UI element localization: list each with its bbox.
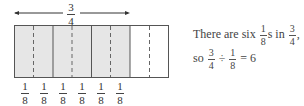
eighth-label: 18: [21, 81, 29, 106]
inline-fraction: 18: [260, 24, 267, 47]
inline-fraction: 34: [289, 24, 296, 47]
eighth-label: 18: [116, 81, 124, 106]
inline-fraction: 34: [208, 48, 215, 71]
eighth-label: 18: [40, 81, 48, 106]
eighth-label: 18: [59, 81, 67, 106]
explanation-line-1: There are six 18s in 34,: [193, 24, 300, 47]
fraction-bar-model: [0, 0, 180, 80]
eighth-label: 18: [78, 81, 86, 106]
explanation-line-2: so 34 ÷ 18 = 6: [193, 48, 256, 71]
eighth-label: 18: [97, 81, 105, 106]
inline-fraction: 18: [229, 48, 236, 71]
